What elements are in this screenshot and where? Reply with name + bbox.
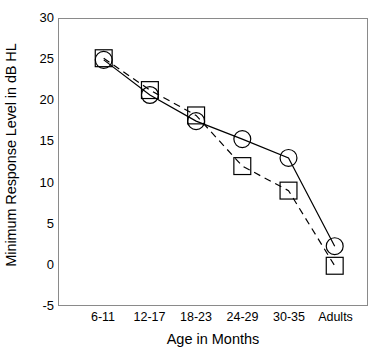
data-point-square [188,107,205,124]
y-axis-label: Minimum Response Level in dB HL [0,0,22,310]
plot-svg [59,19,367,305]
x-tick-label: Adults [318,310,353,324]
y-axis-label-text: Minimum Response Level in dB HL [3,43,19,266]
x-tick-label: 18-23 [180,310,212,324]
data-point-circle [234,131,251,148]
y-tick-label: 20 [22,93,54,106]
y-tick-label: -5 [22,299,54,312]
plot-area [58,18,368,306]
data-point-circle [280,149,297,166]
series-circle [95,51,343,254]
y-tick-label: 5 [22,217,54,230]
data-point-circle [326,238,343,255]
data-point-square [326,257,343,274]
y-tick-label: 0 [22,258,54,271]
data-point-square [95,50,112,67]
y-tick-label: 15 [22,134,54,147]
y-tick-label: 25 [22,52,54,65]
x-tick-label: 12-17 [134,310,166,324]
series-line [104,58,335,266]
x-tick-label: 6-11 [91,310,115,324]
data-point-square [280,182,297,199]
y-tick-label: 10 [22,176,54,189]
chart-figure: Minimum Response Level in dB HL 30252015… [0,0,380,364]
series-line [104,60,335,246]
data-point-square [234,158,251,175]
x-tick-label: 24-29 [227,310,259,324]
y-tick-label: 30 [22,11,54,24]
x-axis-label: Age in Months [58,331,368,347]
x-axis-tick-labels: 6-1112-1718-2324-2930-35Adults [58,310,368,328]
data-point-square [141,82,158,99]
x-tick-label: 30-35 [273,310,305,324]
y-axis-tick-labels: 302520151050-5 [22,0,54,364]
series-square [95,50,343,274]
